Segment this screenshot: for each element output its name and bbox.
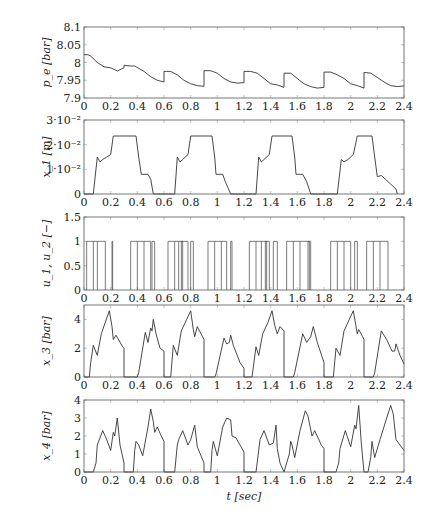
x-tick-label: 0.2 bbox=[102, 292, 120, 305]
x-tick-label: 0 bbox=[81, 474, 88, 487]
x-tick-label: 1 bbox=[214, 292, 221, 305]
x-tick-label: 0.2 bbox=[102, 474, 120, 487]
y-tick-label: 4 bbox=[74, 313, 81, 326]
x-tick-label: 1.2 bbox=[235, 474, 253, 487]
x-tick-label: 2 bbox=[347, 100, 354, 113]
y-tick-label: 0 bbox=[74, 371, 81, 384]
line-series bbox=[84, 405, 404, 472]
x-axis-label: t [sec] bbox=[227, 490, 263, 503]
x-tick-label: 1.6 bbox=[289, 474, 307, 487]
x-tick-label: 2 bbox=[347, 196, 354, 209]
x-tick-label: 0.2 bbox=[102, 196, 120, 209]
y-tick-label: 0 bbox=[74, 284, 81, 297]
x-tick-label: 1.8 bbox=[315, 100, 333, 113]
x-tick-label: 0.8 bbox=[182, 100, 200, 113]
plot-frame bbox=[84, 217, 404, 290]
x-tick-label: 2.4 bbox=[395, 474, 413, 487]
x-tick-label: 1.2 bbox=[235, 196, 253, 209]
y-tick-label: 1 bbox=[74, 235, 81, 248]
y-tick-label: 7.95 bbox=[57, 74, 82, 87]
x-tick-label: 1.8 bbox=[315, 379, 333, 392]
x-tick-label: 2.4 bbox=[395, 100, 413, 113]
y-tick-label: 4 bbox=[74, 394, 81, 407]
x-tick-label: 1.4 bbox=[262, 474, 280, 487]
x-tick-label: 1.8 bbox=[315, 196, 333, 209]
line-series bbox=[84, 136, 397, 194]
subplot-5: 00.20.40.60.811.21.41.61.822.22.401234x_… bbox=[40, 394, 413, 487]
y-tick-label: 1 bbox=[74, 448, 81, 461]
subplot-panels: 00.20.40.60.811.21.41.61.822.22.47.97.95… bbox=[40, 21, 413, 487]
x-tick-label: 1.6 bbox=[289, 100, 307, 113]
x-tick-label: 0 bbox=[81, 292, 88, 305]
y-tick-label: 3 bbox=[74, 412, 81, 425]
x-tick-label: 1.6 bbox=[289, 196, 307, 209]
x-tick-label: 0 bbox=[81, 196, 88, 209]
x-tick-label: 1.2 bbox=[235, 292, 253, 305]
x-tick-label: 0.2 bbox=[102, 100, 120, 113]
line-series bbox=[84, 311, 404, 377]
x-tick-label: 0.6 bbox=[155, 379, 173, 392]
x-tick-label: 1 bbox=[214, 100, 221, 113]
pulse-series bbox=[87, 241, 388, 290]
x-tick-label: 0 bbox=[81, 100, 88, 113]
x-tick-label: 0.6 bbox=[155, 292, 173, 305]
x-tick-label: 0.2 bbox=[102, 379, 120, 392]
subplot-1: 00.20.40.60.811.21.41.61.822.22.47.97.95… bbox=[40, 21, 413, 113]
x-tick-label: 1.8 bbox=[315, 292, 333, 305]
y-tick-label: 7.9 bbox=[64, 92, 82, 105]
x-tick-label: 0.6 bbox=[155, 100, 173, 113]
x-tick-label: 1.8 bbox=[315, 474, 333, 487]
x-tick-label: 1.6 bbox=[289, 292, 307, 305]
y-tick-label: 1.5 bbox=[64, 211, 82, 224]
y-axis-label: u_1, u_2 [−] bbox=[40, 219, 53, 287]
y-tick-label: 2 bbox=[74, 342, 81, 355]
x-tick-label: 2.4 bbox=[395, 292, 413, 305]
x-tick-label: 0 bbox=[81, 379, 88, 392]
y-tick-label: 8.05 bbox=[57, 39, 82, 52]
x-tick-label: 0.4 bbox=[129, 292, 147, 305]
y-tick-label: 0 bbox=[74, 466, 81, 479]
plot-frame bbox=[84, 27, 404, 98]
x-tick-label: 1.4 bbox=[262, 292, 280, 305]
x-tick-label: 2.2 bbox=[369, 379, 387, 392]
x-tick-label: 1 bbox=[214, 196, 221, 209]
y-axis-label: x_1 [m] bbox=[40, 136, 53, 178]
y-tick-label: 2 bbox=[74, 430, 81, 443]
y-tick-label: 0 bbox=[74, 188, 81, 201]
x-tick-label: 2.4 bbox=[395, 379, 413, 392]
x-tick-label: 1 bbox=[214, 474, 221, 487]
x-tick-label: 0.8 bbox=[182, 292, 200, 305]
x-tick-label: 0.4 bbox=[129, 196, 147, 209]
x-tick-label: 1.4 bbox=[262, 379, 280, 392]
x-tick-label: 1.4 bbox=[262, 100, 280, 113]
y-axis-label: x_4 [bar] bbox=[40, 410, 53, 460]
x-tick-label: 0.4 bbox=[129, 379, 147, 392]
x-tick-label: 2.2 bbox=[369, 196, 387, 209]
x-tick-label: 1 bbox=[214, 379, 221, 392]
x-tick-label: 2 bbox=[347, 474, 354, 487]
x-tick-label: 0.8 bbox=[182, 196, 200, 209]
x-tick-label: 2.2 bbox=[369, 292, 387, 305]
x-tick-label: 1.4 bbox=[262, 196, 280, 209]
y-axis-label: p_e [bar] bbox=[40, 37, 53, 88]
x-tick-label: 0.8 bbox=[182, 474, 200, 487]
x-tick-label: 1.6 bbox=[289, 379, 307, 392]
x-tick-label: 0.4 bbox=[129, 100, 147, 113]
x-tick-label: 2.2 bbox=[369, 474, 387, 487]
plot-frame bbox=[84, 305, 404, 377]
x-tick-label: 2.4 bbox=[395, 196, 413, 209]
x-tick-label: 0.8 bbox=[182, 379, 200, 392]
x-tick-label: 0.6 bbox=[155, 196, 173, 209]
x-tick-label: 0.4 bbox=[129, 474, 147, 487]
x-tick-label: 2 bbox=[347, 379, 354, 392]
y-tick-label: 0.5 bbox=[64, 260, 82, 273]
y-tick-label: 3·10⁻² bbox=[46, 114, 81, 127]
subplot-3: 00.20.40.60.811.21.41.61.822.22.400.511.… bbox=[40, 211, 413, 305]
x-tick-label: 2.2 bbox=[369, 100, 387, 113]
x-tick-label: 1.2 bbox=[235, 379, 253, 392]
y-axis-label: x_3 [bar] bbox=[40, 315, 53, 365]
subplot-4: 00.20.40.60.811.21.41.61.822.22.4024x_3 … bbox=[40, 305, 413, 392]
x-tick-label: 0.6 bbox=[155, 474, 173, 487]
x-tick-label: 1.2 bbox=[235, 100, 253, 113]
figure: 00.20.40.60.811.21.41.61.822.22.47.97.95… bbox=[0, 0, 431, 524]
